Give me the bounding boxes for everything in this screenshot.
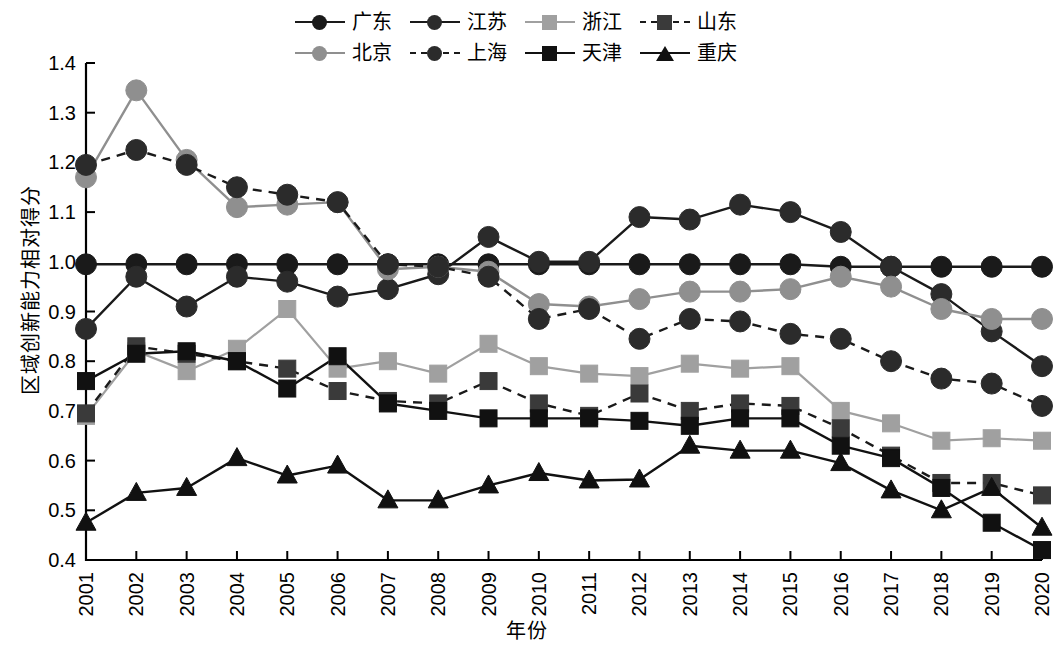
data-point: [528, 308, 549, 329]
series-lines: [86, 90, 1042, 550]
data-point: [78, 405, 95, 422]
y-tick-label: 0.7: [48, 400, 76, 422]
data-point: [1032, 395, 1053, 416]
y-tick-label: 0.8: [48, 350, 76, 372]
data-point: [780, 254, 801, 275]
chart-figure: 广东江苏浙江山东北京上海天津重庆 区域创新能力相对得分 年份 0.40.50.6…: [0, 0, 1053, 647]
data-point: [327, 286, 348, 307]
data-point: [177, 477, 197, 495]
data-point: [279, 360, 296, 377]
x-tick-label: 2001: [75, 572, 97, 617]
data-point: [931, 299, 952, 320]
data-point: [1034, 432, 1051, 449]
data-point: [832, 402, 849, 419]
data-point: [428, 256, 449, 277]
data-point: [629, 289, 650, 310]
data-point: [883, 415, 900, 432]
y-tick-label: 1.2: [48, 151, 76, 173]
x-tick-label: 2006: [327, 572, 349, 617]
x-tick-label: 2015: [779, 572, 801, 617]
data-point: [780, 279, 801, 300]
data-point: [178, 363, 195, 380]
data-point: [681, 355, 698, 372]
data-point: [1034, 487, 1051, 504]
data-point: [933, 432, 950, 449]
x-tick-label: 2002: [125, 572, 147, 617]
data-point: [228, 353, 245, 370]
data-point: [226, 177, 247, 198]
data-point: [530, 410, 547, 427]
y-tick-label: 1.3: [48, 102, 76, 124]
data-point: [780, 440, 800, 458]
data-point: [480, 410, 497, 427]
x-tick-label: 2012: [628, 572, 650, 617]
data-point: [277, 271, 298, 292]
data-point: [480, 373, 497, 390]
series-markers: [76, 80, 1053, 559]
data-point: [227, 448, 247, 466]
data-point: [78, 373, 95, 390]
data-point: [327, 192, 348, 213]
data-point: [176, 254, 197, 275]
data-point: [1032, 256, 1053, 277]
data-point: [76, 254, 97, 275]
data-point: [881, 276, 902, 297]
line-chart-svg: 0.40.50.60.70.80.91.01.11.21.31.42001200…: [0, 0, 1053, 647]
data-point: [832, 420, 849, 437]
data-point: [681, 417, 698, 434]
data-point: [629, 254, 650, 275]
data-point: [579, 299, 600, 320]
data-point: [732, 410, 749, 427]
x-tick-label: 2018: [930, 572, 952, 617]
data-point: [76, 318, 97, 339]
data-point: [377, 279, 398, 300]
data-point: [631, 412, 648, 429]
data-point: [379, 353, 396, 370]
data-point: [430, 402, 447, 419]
data-point: [782, 410, 799, 427]
data-point: [931, 256, 952, 277]
y-tick-label: 0.9: [48, 301, 76, 323]
y-tick-label: 1.4: [48, 52, 76, 74]
x-tick-label: 2016: [830, 572, 852, 617]
x-tick-label: 2009: [478, 572, 500, 617]
data-point: [931, 368, 952, 389]
data-point: [883, 450, 900, 467]
data-point: [327, 254, 348, 275]
data-point: [126, 266, 147, 287]
data-point: [226, 197, 247, 218]
data-point: [830, 266, 851, 287]
data-point: [629, 469, 649, 487]
data-point: [679, 254, 700, 275]
data-point: [679, 308, 700, 329]
x-tick-label: 2014: [729, 572, 751, 617]
data-point: [679, 281, 700, 302]
y-tick-label: 0.4: [48, 549, 76, 571]
x-tick-label: 2010: [528, 572, 550, 617]
data-point: [730, 311, 751, 332]
series-markers-6: [78, 343, 1051, 559]
data-point: [631, 368, 648, 385]
data-point: [981, 373, 1002, 394]
series-markers-3: [78, 338, 1051, 504]
data-point: [981, 308, 1002, 329]
x-tick-label: 2004: [226, 572, 248, 617]
data-point: [480, 335, 497, 352]
data-point: [983, 514, 1000, 531]
data-point: [76, 154, 97, 175]
x-tick-label: 2007: [377, 572, 399, 617]
data-point: [478, 226, 499, 247]
y-tick-label: 0.5: [48, 499, 76, 521]
data-point: [581, 365, 598, 382]
data-point: [730, 281, 751, 302]
data-point: [529, 463, 549, 481]
data-point: [279, 380, 296, 397]
data-point: [176, 154, 197, 175]
data-point: [329, 348, 346, 365]
data-point: [379, 395, 396, 412]
data-point: [830, 221, 851, 242]
data-point: [933, 479, 950, 496]
data-point: [730, 194, 751, 215]
y-tick-label: 1.0: [48, 251, 76, 273]
data-point: [126, 139, 147, 160]
